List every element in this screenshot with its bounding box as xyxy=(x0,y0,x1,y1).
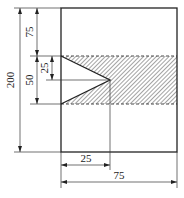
dim-50: 50 xyxy=(23,56,39,104)
plate-drawing: 200 75 50 25 25 75 xyxy=(0,0,184,198)
dim-25-vertical: 25 xyxy=(38,56,54,80)
svg-text:25: 25 xyxy=(38,62,50,74)
svg-text:50: 50 xyxy=(23,74,35,86)
svg-text:75: 75 xyxy=(23,26,35,38)
svg-text:75: 75 xyxy=(114,169,126,181)
dim-75-top: 75 xyxy=(23,8,39,56)
dim-200: 200 xyxy=(4,8,22,152)
dim-75-horizontal: 75 xyxy=(61,169,177,184)
svg-text:25: 25 xyxy=(81,152,93,164)
svg-text:200: 200 xyxy=(4,71,16,88)
dim-25-horizontal: 25 xyxy=(61,152,110,167)
